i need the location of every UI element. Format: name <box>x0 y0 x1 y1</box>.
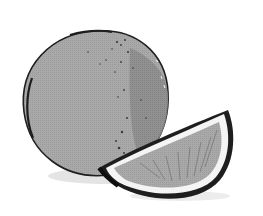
orange-svg <box>0 0 263 216</box>
orange-illustration: Orange with wedge slice <box>0 0 263 216</box>
